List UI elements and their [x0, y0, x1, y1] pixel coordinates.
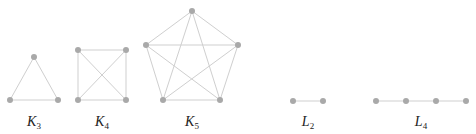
edge	[146, 45, 163, 100]
edge	[192, 11, 238, 45]
label-k5: K5	[185, 114, 199, 131]
vertex	[75, 97, 81, 103]
edge	[192, 11, 220, 100]
edge	[163, 45, 238, 100]
vertex	[290, 98, 296, 104]
label-l2: L2	[302, 114, 314, 131]
vertex	[433, 98, 439, 104]
vertex	[143, 42, 149, 48]
label-k3: K3	[27, 114, 41, 131]
graph-l2	[290, 98, 326, 104]
vertex	[217, 97, 223, 103]
vertex	[235, 42, 241, 48]
vertex	[75, 47, 81, 53]
graph-k3	[7, 54, 61, 103]
graph-k4	[75, 47, 129, 103]
vertex	[55, 97, 61, 103]
edge	[146, 11, 192, 45]
label-l4: L4	[415, 114, 427, 131]
vertex	[403, 98, 409, 104]
edge	[146, 45, 220, 100]
vertex	[123, 47, 129, 53]
vertex	[189, 8, 195, 14]
label-k4: K4	[95, 114, 109, 131]
edge	[10, 57, 34, 100]
vertex	[31, 54, 37, 60]
vertex	[373, 98, 379, 104]
vertex	[123, 97, 129, 103]
vertex	[320, 98, 326, 104]
vertex	[160, 97, 166, 103]
edge	[34, 57, 58, 100]
graph-diagram	[0, 0, 476, 134]
vertex	[463, 98, 469, 104]
edge	[163, 11, 192, 100]
graph-k5	[143, 8, 241, 103]
graph-l4	[373, 98, 469, 104]
vertex	[7, 97, 13, 103]
edge	[220, 45, 238, 100]
